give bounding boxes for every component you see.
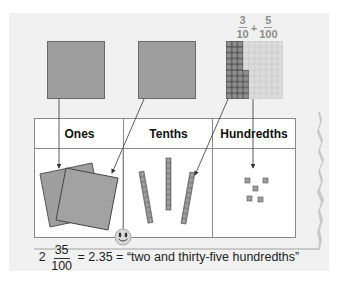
ones-flat-2: [56, 168, 118, 230]
blocks-and-arrows: [0, 0, 338, 282]
smiley-face-icon: [115, 229, 131, 245]
equation-caption: 2 35100 = 2.35 = “two and thirty-five hu…: [0, 244, 338, 272]
